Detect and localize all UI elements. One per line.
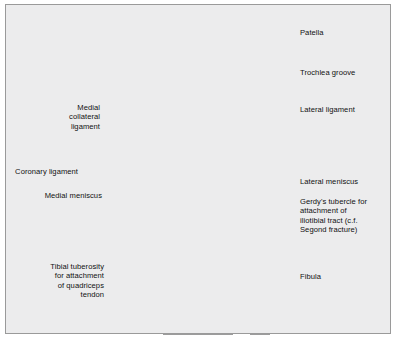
label-lateral-ligament: Lateral ligament [300, 105, 355, 114]
label-tibial-tuberosity: Tibial tuberosity for attachment of quad… [24, 262, 104, 300]
label-fibula: Fibula [300, 272, 321, 281]
label-gerdys-tubercle: Gerdy's tubercle for attachment of iliot… [300, 197, 367, 235]
label-patella: Patella [300, 28, 324, 37]
label-trochlea-groove: Trochlea groove [300, 68, 355, 77]
label-lateral-meniscus: Lateral meniscus [300, 177, 358, 186]
knee-anatomy-figure: Patella Trochlea groove Lateral ligament… [0, 0, 399, 350]
label-medial-meniscus: Medial meniscus [10, 191, 102, 200]
label-coronary-ligament: Coronary ligament [8, 167, 78, 176]
label-medial-collateral-ligament: Medial collateral ligament [24, 103, 100, 131]
